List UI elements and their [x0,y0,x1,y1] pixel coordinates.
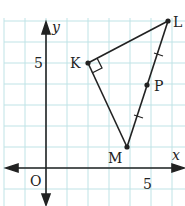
tick-mark-lp [154,53,163,56]
x-tick-5-label: 5 [143,176,152,192]
point-k-label: K [70,55,81,71]
point-l-label: L [173,14,182,30]
y-axis-label: y [51,19,61,35]
point-p-label: P [154,78,163,94]
point-k [85,60,90,65]
point-l [165,18,170,23]
point-p [144,82,149,87]
coordinate-figure: y x O 5 5 K L M P [0,0,185,206]
point-m-label: M [108,150,122,166]
y-tick-5-label: 5 [34,55,43,71]
x-axis-left-arrow-icon [6,164,18,172]
x-axis-right-arrow-icon [172,164,184,172]
x-axis-label: x [172,147,180,163]
point-m [124,144,129,149]
origin-label: O [30,173,41,189]
tick-mark-pm [134,115,143,118]
y-axis-down-arrow-icon [42,194,50,205]
y-axis-up-arrow-icon [42,22,50,34]
